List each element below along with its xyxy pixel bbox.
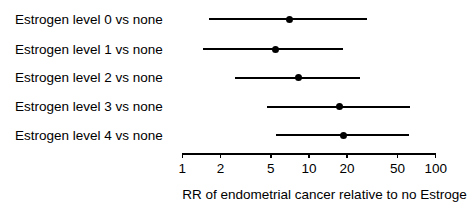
forest-plot-chart: Estrogen level 0 vs noneEstrogen level 1…	[0, 0, 467, 210]
row-label-2: Estrogen level 2 vs none	[15, 71, 163, 85]
x-axis-tick-5	[270, 153, 272, 158]
point-estimate-marker-4	[340, 132, 347, 139]
point-estimate-marker-0	[286, 16, 293, 23]
point-estimate-marker-2	[295, 74, 302, 81]
x-axis-tick-label-2: 2	[217, 162, 225, 176]
x-axis-tick-label-20: 20	[340, 162, 355, 176]
point-estimate-marker-1	[272, 46, 279, 53]
x-axis-tick-label-100: 100	[424, 162, 447, 176]
row-label-3: Estrogen level 3 vs none	[15, 100, 163, 114]
point-estimate-marker-3	[336, 103, 343, 110]
x-axis-tick-2	[220, 153, 222, 158]
x-axis-tick-1	[182, 153, 184, 158]
x-axis-tick-100	[435, 153, 437, 158]
x-axis-tick-label-5: 5	[267, 162, 275, 176]
x-axis-tick-20	[346, 153, 348, 158]
row-label-4: Estrogen level 4 vs none	[15, 129, 163, 143]
x-axis-tick-10	[308, 153, 310, 158]
x-axis-title: RR of endometrial cancer relative to no …	[182, 188, 435, 202]
x-axis-tick-label-1: 1	[179, 162, 187, 176]
row-label-1: Estrogen level 1 vs none	[15, 43, 163, 57]
x-axis-tick-label-50: 50	[390, 162, 405, 176]
x-axis-tick-50	[397, 153, 399, 158]
x-axis-tick-label-10: 10	[301, 162, 316, 176]
row-label-0: Estrogen level 0 vs none	[15, 13, 163, 27]
